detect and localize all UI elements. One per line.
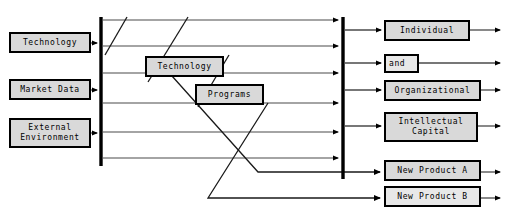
programs-process-label: Programs <box>208 90 251 100</box>
new-product-a-output-label: New Product A <box>397 166 467 176</box>
market-data-input-label: Market Data <box>20 85 80 95</box>
new-product-b-output-box[interactable]: New Product B <box>385 187 480 206</box>
organizational-output-box[interactable]: Organizational <box>385 81 480 100</box>
and-output-box[interactable]: and <box>385 55 418 72</box>
technology-input-label: Technology <box>23 38 77 48</box>
intellectual-capital-output-label: Intellectual Capital <box>399 117 464 137</box>
new-product-b-output-label: New Product B <box>397 192 467 202</box>
programs-process-box[interactable]: Programs <box>196 85 263 104</box>
technology-process-box[interactable]: Technology <box>146 57 223 76</box>
diagonal-5-to-new-product-b <box>208 103 380 198</box>
output-connectors <box>345 30 381 126</box>
technology-input-box[interactable]: Technology <box>10 33 90 52</box>
individual-output-box[interactable]: Individual <box>385 21 469 40</box>
external-environment-input-box[interactable]: External Environment <box>10 119 90 147</box>
external-environment-input-label: External Environment <box>20 123 80 143</box>
input-connectors <box>90 43 97 133</box>
organizational-output-label: Organizational <box>395 86 471 96</box>
intellectual-capital-output-box[interactable]: Intellectual Capital <box>385 113 477 141</box>
new-product-a-output-box[interactable]: New Product A <box>385 161 480 180</box>
individual-output-label: Individual <box>400 26 454 36</box>
technology-process-label: Technology <box>157 62 211 72</box>
and-output-label: and <box>389 59 405 69</box>
process-flow-diagram: Technology Market Data External Environm… <box>0 0 509 222</box>
diagonal-lines <box>105 17 380 198</box>
market-data-input-box[interactable]: Market Data <box>10 80 90 99</box>
diagonal-1 <box>105 17 127 55</box>
